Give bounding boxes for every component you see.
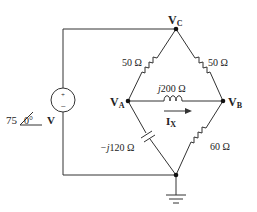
inductor-va-vb bbox=[128, 96, 223, 101]
label-r-vb-gnd: 60 Ω bbox=[210, 141, 230, 152]
label-va: VA bbox=[110, 95, 125, 110]
node-va bbox=[126, 99, 131, 104]
ground-icon bbox=[166, 175, 186, 203]
label-r-vc-vb: 50 Ω bbox=[208, 57, 228, 68]
current-sub: X bbox=[170, 120, 176, 129]
voltage-source: + − bbox=[51, 88, 75, 112]
va-main: V bbox=[110, 95, 119, 109]
capacitor-va-gnd bbox=[128, 101, 176, 175]
label-c-va-gnd: −j120 Ω bbox=[100, 142, 134, 153]
vb-main: V bbox=[228, 95, 237, 109]
vc-sub: C bbox=[177, 19, 183, 28]
node-vb bbox=[221, 99, 226, 104]
label-vc: VC bbox=[168, 13, 183, 28]
node-bottom bbox=[174, 173, 179, 178]
label-current: IX bbox=[166, 115, 176, 129]
source-angle: 0° bbox=[24, 115, 33, 126]
label-l-value: 200 Ω bbox=[161, 83, 186, 94]
va-sub: A bbox=[119, 101, 125, 110]
label-r-vc-va: 50 Ω bbox=[122, 57, 142, 68]
source-minus: − bbox=[60, 101, 65, 111]
label-c-value: 120 Ω bbox=[110, 142, 135, 153]
label-l-va-vb: j200 Ω bbox=[156, 83, 186, 94]
vc-main: V bbox=[168, 13, 177, 27]
source-plus: + bbox=[61, 91, 65, 99]
source-magnitude: 75 bbox=[6, 114, 18, 126]
label-c-prefix: −j bbox=[100, 142, 110, 153]
resistor-vb-gnd bbox=[176, 101, 223, 175]
current-arrow-icon bbox=[164, 108, 192, 114]
wire-top bbox=[63, 29, 176, 88]
circuit-diagram: + − 75 0° V 50 Ω 50 Ω j200 Ω IX bbox=[0, 0, 257, 212]
source-unit: V bbox=[47, 114, 55, 126]
source-label: 75 0° V bbox=[6, 112, 55, 126]
label-vb: VB bbox=[228, 95, 243, 110]
vb-sub: B bbox=[237, 101, 243, 110]
